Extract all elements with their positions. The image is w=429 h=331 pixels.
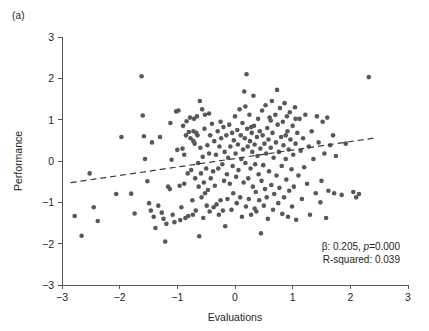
data-point	[182, 153, 187, 158]
x-tick-label: 1	[290, 291, 296, 303]
data-point	[161, 217, 166, 222]
data-point	[268, 118, 273, 123]
data-point	[301, 136, 306, 141]
data-point	[186, 214, 191, 219]
data-point	[324, 216, 329, 221]
data-point	[196, 161, 201, 166]
data-point	[221, 208, 226, 213]
data-point	[156, 203, 161, 208]
data-point	[275, 122, 280, 127]
y-tick-label: 1	[48, 114, 54, 126]
data-point	[233, 114, 238, 119]
data-point	[225, 197, 230, 202]
data-point	[351, 190, 356, 195]
r-squared-annotation: R-squared: 0.039	[323, 254, 401, 265]
data-point	[222, 179, 227, 184]
data-point	[225, 172, 230, 177]
data-point	[263, 103, 268, 108]
data-point	[242, 89, 247, 94]
data-point	[180, 146, 185, 151]
data-point	[252, 142, 257, 147]
data-point	[249, 212, 254, 217]
data-point	[201, 216, 206, 221]
data-point	[260, 108, 265, 113]
data-point	[234, 201, 239, 206]
data-point	[296, 173, 301, 178]
data-point	[227, 122, 232, 127]
data-point	[233, 151, 238, 156]
data-point	[193, 176, 198, 181]
data-point	[243, 136, 248, 141]
data-point	[287, 110, 292, 115]
data-point	[238, 195, 243, 200]
data-point	[322, 151, 327, 156]
data-point	[189, 168, 194, 173]
data-point	[279, 164, 284, 169]
data-point	[132, 211, 137, 216]
data-point	[285, 129, 290, 134]
figure-panel-a: (a) −3−2−10123−3−2−10123EvaluationsPerfo…	[0, 0, 429, 331]
data-point	[212, 139, 217, 144]
data-point	[217, 212, 222, 217]
data-point	[292, 184, 297, 189]
data-point	[282, 101, 287, 106]
data-point	[245, 126, 250, 131]
data-point	[142, 134, 147, 139]
data-point	[228, 144, 233, 149]
data-point	[195, 114, 200, 119]
data-point	[279, 135, 284, 140]
data-point	[176, 108, 181, 113]
data-point	[271, 207, 276, 212]
data-point	[191, 212, 196, 217]
data-point	[200, 107, 205, 112]
data-point	[308, 212, 313, 217]
y-tick-label: 0	[48, 155, 54, 167]
data-point	[149, 208, 154, 213]
data-point	[316, 140, 321, 145]
data-point	[214, 202, 219, 207]
data-point	[223, 224, 228, 229]
data-point	[278, 106, 283, 111]
data-point	[228, 181, 233, 186]
data-point	[143, 157, 148, 162]
data-point	[277, 186, 282, 191]
data-point	[243, 161, 248, 166]
data-point	[286, 215, 291, 220]
data-point	[231, 191, 236, 196]
data-point	[218, 198, 223, 203]
data-point	[211, 169, 216, 174]
data-point	[145, 179, 150, 184]
data-point	[169, 157, 174, 162]
data-point	[190, 198, 195, 203]
data-point	[257, 198, 262, 203]
data-point	[305, 181, 310, 186]
data-point	[163, 239, 168, 244]
data-point	[282, 195, 287, 200]
data-point	[261, 163, 266, 168]
data-point	[208, 133, 213, 138]
data-point	[235, 128, 240, 133]
data-point	[285, 114, 290, 119]
data-point	[263, 187, 268, 192]
data-point	[270, 131, 275, 136]
data-point	[339, 193, 344, 198]
data-point	[326, 188, 331, 193]
y-tick-label: −1	[42, 196, 54, 208]
y-tick-label: −2	[42, 238, 54, 250]
data-point	[207, 209, 212, 214]
data-point	[207, 111, 212, 116]
beta-p-annotation: β: 0.205, p=0.000	[322, 241, 401, 252]
data-point	[250, 150, 255, 155]
data-point	[218, 119, 223, 124]
data-point	[311, 157, 316, 162]
data-point	[240, 121, 245, 126]
data-point	[224, 133, 229, 138]
data-point	[175, 148, 180, 153]
y-tick-label: 3	[48, 31, 54, 43]
data-point	[357, 192, 362, 197]
data-point	[256, 172, 261, 177]
data-point	[332, 191, 337, 196]
data-point	[313, 191, 318, 196]
data-point	[274, 173, 279, 178]
data-point	[147, 201, 152, 206]
